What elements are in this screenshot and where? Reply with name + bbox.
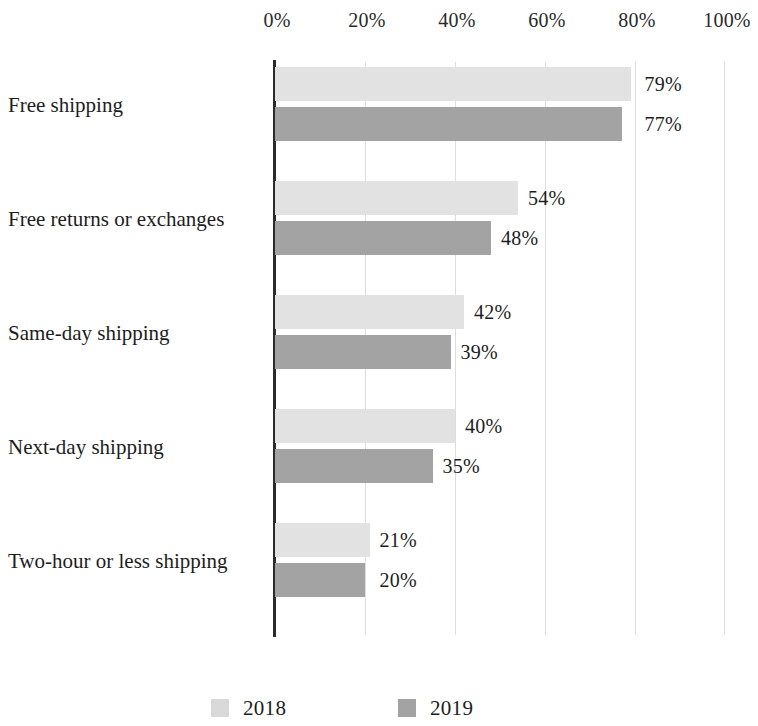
legend-item-2018: 2018 (211, 694, 286, 722)
gridline-100 (724, 62, 725, 635)
x-tick-20: 20% (348, 8, 385, 32)
bar-value-2018-same-day: 42% (474, 295, 511, 329)
gridline-60 (545, 62, 546, 635)
bar-value-2019-free-returns: 48% (501, 221, 538, 255)
x-tick-40: 40% (438, 8, 475, 32)
legend-swatch-2018-icon (211, 699, 229, 717)
bar-2019-next-day (275, 449, 433, 483)
category-label-free-returns: Free returns or exchanges (8, 206, 266, 232)
plot-area: 79% 77% 54% 48% 42% 39% 40% 35% 21% 20% (275, 62, 725, 635)
category-label-two-hour-shipping: Two-hour or less shipping (8, 548, 266, 574)
gridline-40 (455, 62, 456, 635)
bar-value-2019-two-hour: 20% (380, 563, 417, 597)
x-tick-100: 100% (703, 8, 750, 32)
bar-value-2019-next-day: 35% (443, 449, 480, 483)
bar-value-2018-two-hour: 21% (380, 523, 417, 557)
legend-swatch-2019-icon (398, 699, 416, 717)
x-tick-60: 60% (528, 8, 565, 32)
bar-value-2019-free-shipping: 77% (645, 107, 682, 141)
bar-value-2018-free-returns: 54% (528, 181, 565, 215)
bar-2018-free-shipping (275, 67, 631, 101)
gridline-80 (635, 62, 636, 635)
category-label-next-day-shipping: Next-day shipping (8, 434, 266, 460)
category-label-same-day-shipping: Same-day shipping (8, 320, 266, 346)
x-tick-0: 0% (263, 8, 290, 32)
bar-2018-two-hour (275, 523, 370, 557)
bar-value-2019-same-day: 39% (461, 335, 498, 369)
bar-2018-free-returns (275, 181, 518, 215)
bar-2019-free-returns (275, 221, 491, 255)
legend-label-2019: 2019 (430, 697, 473, 719)
grouped-bar-chart: 0% 20% 40% 60% 80% 100% Free shipping Fr… (0, 0, 758, 726)
bar-2018-next-day (275, 409, 455, 443)
legend-item-2019: 2019 (398, 694, 473, 722)
bar-value-2018-free-shipping: 79% (645, 67, 682, 101)
bar-value-2018-next-day: 40% (465, 409, 502, 443)
bar-2019-same-day (275, 335, 451, 369)
bar-2018-same-day (275, 295, 464, 329)
legend-label-2018: 2018 (243, 697, 286, 719)
chart-legend: 2018 2019 (0, 694, 758, 726)
category-label-free-shipping: Free shipping (8, 92, 266, 118)
x-tick-80: 80% (618, 8, 655, 32)
bar-2019-two-hour (275, 563, 365, 597)
bar-2019-free-shipping (275, 107, 622, 141)
